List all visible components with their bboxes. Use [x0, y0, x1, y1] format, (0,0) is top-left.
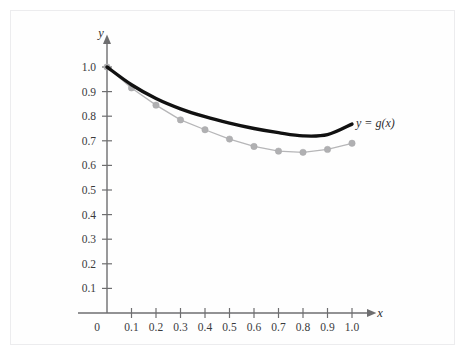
data-point-marker [324, 146, 330, 152]
data-point-marker [349, 140, 355, 146]
y-tick-label: 0.3 [82, 233, 97, 245]
x-tick-label: 0.6 [247, 321, 262, 333]
y-axis-label: y [96, 26, 104, 40]
x-tick-label: 1.0 [345, 321, 360, 333]
x-axis-group: x 0.10.20.30.40.50.60.70.80.91.0 0 [78, 306, 383, 333]
data-point-marker [251, 143, 257, 149]
data-point-marker [177, 117, 183, 123]
series-curve [107, 67, 352, 136]
series-layer [104, 64, 355, 156]
data-point-marker [300, 149, 306, 155]
origin-tick-label: 0 [94, 321, 100, 333]
plot-canvas: y 0.10.20.30.40.50.60.70.80.91.0 x 0.10.… [0, 0, 471, 363]
x-tick-label: 0.8 [296, 321, 311, 333]
figure-root: y 0.10.20.30.40.50.60.70.80.91.0 x 0.10.… [0, 0, 471, 363]
x-tick-label: 0.3 [173, 321, 188, 333]
series-sampled [104, 64, 355, 156]
x-tick-label: 0.1 [124, 321, 139, 333]
x-tick-label: 0.7 [271, 321, 286, 333]
function-curve [107, 67, 352, 136]
x-tick-label: 0.9 [320, 321, 335, 333]
data-point-marker [226, 136, 232, 142]
data-point-marker [153, 102, 159, 108]
y-tick-label: 1.0 [82, 61, 97, 73]
x-tick-label: 0.2 [149, 321, 164, 333]
y-tick-label: 0.2 [82, 258, 97, 270]
data-point-marker [275, 148, 281, 154]
x-axis-label: x [376, 306, 383, 320]
y-tick-label: 0.8 [82, 110, 97, 122]
y-tick-label: 0.6 [82, 159, 97, 171]
y-tick-label: 0.4 [82, 209, 97, 221]
x-tick-label: 0.4 [198, 321, 213, 333]
x-tick-group: 0.10.20.30.40.50.60.70.80.91.0 [124, 308, 359, 333]
y-tick-label: 0.1 [82, 282, 97, 294]
data-point-marker [202, 127, 208, 133]
y-tick-label: 0.7 [82, 135, 97, 147]
x-tick-label: 0.5 [222, 321, 237, 333]
y-tick-label: 0.5 [82, 184, 97, 196]
y-tick-label: 0.9 [82, 86, 97, 98]
curve-label: y = g(x) [355, 116, 395, 130]
